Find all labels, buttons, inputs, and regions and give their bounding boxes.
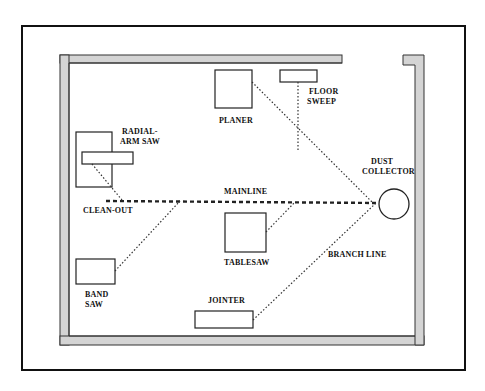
- floor-sweep-box: [280, 70, 317, 82]
- floor-sweep-label-2: SWEEP: [307, 97, 336, 106]
- radial-arm-saw-label-1: RADIAL-: [122, 127, 158, 136]
- radial-arm-saw-label-2: ARM SAW: [120, 137, 160, 146]
- tablesaw-label: TABLESAW: [224, 258, 269, 267]
- left-wall: [60, 55, 69, 345]
- band-saw-label-2: SAW: [85, 300, 103, 309]
- band-saw-label-1: BAND: [85, 290, 108, 299]
- floor-sweep-label-1: FLOOR: [309, 87, 338, 96]
- band-saw-box: [76, 259, 115, 284]
- planer-box: [215, 70, 252, 108]
- dust-collector-circle: [379, 189, 409, 219]
- top-wall: [60, 55, 342, 63]
- jointer-label: JOINTER: [208, 296, 245, 305]
- planer-label: PLANER: [219, 116, 253, 125]
- dust-collector-label-1: DUST: [371, 157, 394, 166]
- dust-collection-floor-plan: RADIAL- ARM SAW PLANER FLOOR SWEEP DUST …: [0, 0, 485, 391]
- bottom-wall: [60, 336, 424, 345]
- dust-collector-label-2: COLLECTOR: [362, 167, 415, 176]
- jointer-box: [195, 311, 253, 328]
- clean-out-label: CLEAN-OUT: [83, 206, 133, 215]
- mainline-label: MAINLINE: [224, 187, 267, 196]
- radial-arm-saw-arm: [82, 152, 133, 164]
- branch-line-label: BRANCH LINE: [328, 250, 386, 259]
- tablesaw-box: [225, 213, 266, 252]
